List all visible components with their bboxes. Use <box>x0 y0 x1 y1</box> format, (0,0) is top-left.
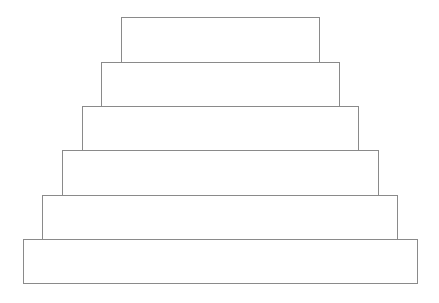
pyramid-tier-4 <box>62 150 379 196</box>
pyramid-tier-6 <box>23 239 418 284</box>
pyramid-tier-2 <box>101 62 340 107</box>
pyramid-diagram <box>0 0 439 303</box>
pyramid-tier-5 <box>42 195 398 240</box>
pyramid-tier-3 <box>82 106 359 151</box>
pyramid-tier-1 <box>121 17 320 63</box>
